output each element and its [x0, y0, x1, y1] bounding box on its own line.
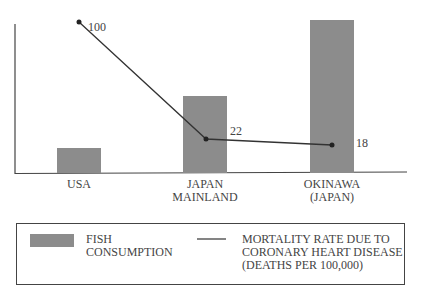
data-label-usa: 100 — [88, 21, 106, 34]
bar-usa — [57, 148, 101, 173]
data-label-japan-mainland: 22 — [230, 125, 242, 138]
bar-japan-mainland — [183, 96, 227, 173]
legend-line-label: MORTALITY RATE DUE TO CORONARY HEART DIS… — [242, 233, 403, 272]
point-japan-mainland — [204, 137, 209, 142]
category-label-japan-mainland: JAPAN MAINLAND — [165, 178, 245, 204]
data-label-okinawa: 18 — [356, 137, 368, 150]
point-usa — [77, 20, 82, 25]
legend-bar-label: FISH CONSUMPTION — [86, 233, 173, 259]
bar-okinawa — [310, 20, 354, 173]
category-label-usa: USA — [49, 178, 109, 191]
category-label-okinawa: OKINAWA (JAPAN) — [292, 178, 372, 204]
point-okinawa — [330, 143, 335, 148]
